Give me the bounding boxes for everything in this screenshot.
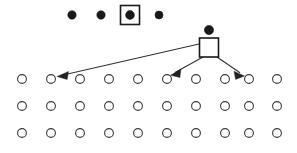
open-node[interactable] bbox=[18, 129, 27, 138]
open-node[interactable] bbox=[245, 102, 254, 111]
source-group bbox=[200, 25, 219, 57]
open-node[interactable] bbox=[134, 102, 143, 111]
open-node[interactable] bbox=[134, 129, 143, 138]
open-node-target[interactable] bbox=[163, 75, 172, 84]
open-node[interactable] bbox=[192, 102, 201, 111]
open-node[interactable] bbox=[221, 129, 230, 138]
diagram-canvas bbox=[0, 0, 297, 153]
open-node[interactable] bbox=[221, 102, 230, 111]
open-node[interactable] bbox=[134, 75, 143, 84]
filled-node-selected[interactable] bbox=[126, 11, 135, 20]
open-node[interactable] bbox=[221, 75, 230, 84]
source-square-marker[interactable] bbox=[200, 38, 219, 57]
grid-row-3 bbox=[18, 129, 282, 138]
grid-row-2 bbox=[18, 102, 282, 111]
open-node[interactable] bbox=[76, 75, 85, 84]
top-filled-row bbox=[68, 6, 163, 25]
edge-line bbox=[217, 57, 240, 73]
open-node[interactable] bbox=[163, 129, 172, 138]
arrowhead-icon bbox=[57, 72, 69, 80]
source-filled-node[interactable] bbox=[204, 25, 213, 34]
arrowhead-icon bbox=[171, 69, 182, 78]
open-node[interactable] bbox=[273, 129, 282, 138]
open-node[interactable] bbox=[76, 102, 85, 111]
open-node[interactable] bbox=[163, 102, 172, 111]
filled-node[interactable] bbox=[155, 11, 163, 19]
open-node[interactable] bbox=[105, 75, 114, 84]
open-node-target[interactable] bbox=[47, 75, 56, 84]
open-node[interactable] bbox=[273, 102, 282, 111]
open-node[interactable] bbox=[18, 102, 27, 111]
open-node-target[interactable] bbox=[245, 75, 254, 84]
filled-node[interactable] bbox=[97, 11, 105, 19]
open-node[interactable] bbox=[105, 102, 114, 111]
node-diagram-svg bbox=[0, 0, 297, 153]
open-node[interactable] bbox=[192, 129, 201, 138]
open-node[interactable] bbox=[18, 75, 27, 84]
open-node[interactable] bbox=[76, 129, 85, 138]
edge-to-row1-col6 bbox=[171, 57, 204, 78]
open-node[interactable] bbox=[245, 129, 254, 138]
open-node[interactable] bbox=[105, 129, 114, 138]
open-node[interactable] bbox=[192, 75, 201, 84]
open-node[interactable] bbox=[47, 129, 56, 138]
open-node[interactable] bbox=[47, 102, 56, 111]
open-node[interactable] bbox=[273, 75, 282, 84]
filled-node[interactable] bbox=[68, 11, 76, 19]
